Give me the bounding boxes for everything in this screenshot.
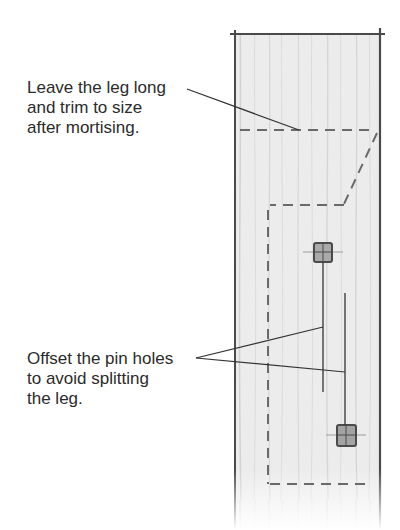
- callout-pin-line-1: Offset the pin holes: [27, 349, 173, 368]
- leg-wood-grain: [235, 34, 380, 530]
- callout-trim-line-1: Leave the leg long: [27, 78, 166, 97]
- callout-trim-line-3: after mortising.: [27, 118, 139, 137]
- callout-pin-line-3: the leg.: [27, 389, 83, 408]
- callout-pin-note: Offset the pin holes to avoid splitting …: [27, 349, 173, 408]
- callout-trim-note: Leave the leg long and trim to size afte…: [27, 78, 166, 137]
- callout-pin-line-2: to avoid splitting: [27, 369, 149, 388]
- callout-trim-line-2: and trim to size: [27, 98, 142, 117]
- leg-diagram: Leave the leg long and trim to size afte…: [0, 0, 400, 530]
- table-leg: [230, 28, 385, 530]
